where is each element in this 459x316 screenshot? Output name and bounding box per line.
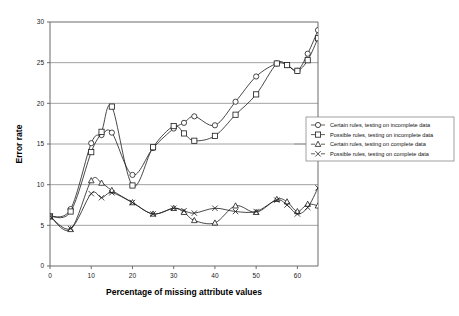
legend-item-1[interactable]: Possible rules, testing on incomplete da…	[311, 132, 434, 138]
series-2-point-4	[109, 187, 115, 192]
series-1-point-13	[274, 61, 279, 66]
series-2-triangle	[47, 177, 321, 231]
series-2-point-9	[192, 217, 198, 222]
series-0-point-9	[192, 114, 197, 119]
series-0-point-12	[254, 74, 259, 79]
y-tick-label-25: 25	[37, 59, 45, 66]
legend-marker-square-1	[315, 132, 320, 137]
chart-container: 0510152025300102030405060Percentage of m…	[0, 0, 459, 316]
legend-label-0: Certain rules, testing on incomplete dat…	[330, 122, 431, 128]
series-1-point-8	[181, 131, 186, 136]
y-tick-label-15: 15	[37, 140, 45, 147]
legend-marker-circle-0	[315, 122, 320, 127]
legend-label-1: Possible rules, testing on incomplete da…	[330, 132, 434, 138]
y-tick-label-10: 10	[37, 181, 45, 188]
y-tick-label-5: 5	[40, 222, 44, 229]
series-0-point-2	[89, 141, 94, 146]
series-1-point-10	[212, 133, 217, 138]
series-2-line	[50, 177, 318, 230]
series-3-point-3	[99, 195, 104, 200]
series-1-point-1	[68, 209, 73, 214]
series-3-x	[47, 185, 320, 231]
series-1-point-2	[89, 150, 94, 155]
series-1-point-9	[192, 138, 197, 143]
series-1-point-14	[284, 63, 289, 68]
y-tick-label-20: 20	[37, 100, 45, 107]
x-tick-label-30: 30	[170, 272, 178, 279]
series-1-point-5	[130, 183, 135, 188]
series-0-point-5	[130, 172, 135, 177]
x-tick-label-10: 10	[88, 272, 96, 279]
series-1-point-3	[99, 129, 104, 134]
x-axis-title: Percentage of missing attribute values	[106, 287, 262, 297]
series-0-point-17	[315, 28, 320, 33]
series-1-point-15	[295, 68, 300, 73]
x-tick-label-60: 60	[294, 272, 302, 279]
y-axis-title: Error rate	[14, 124, 24, 163]
y-tick-label-30: 30	[37, 18, 45, 25]
x-tick-label-0: 0	[48, 272, 52, 279]
series-1-point-7	[171, 124, 176, 129]
series-1-point-12	[254, 92, 259, 97]
series-0-point-11	[233, 99, 238, 104]
x-tick-label-50: 50	[253, 272, 261, 279]
series-0-point-10	[212, 123, 217, 128]
series-0-circle	[47, 28, 320, 219]
series-0-point-8	[181, 120, 186, 125]
series-1-point-6	[150, 145, 155, 150]
series-1-point-17	[315, 36, 320, 41]
series-0-point-4	[109, 130, 114, 135]
series-2-point-10	[212, 220, 218, 225]
legend-label-2: Certain rules, testing on complete data	[330, 141, 427, 147]
series-3-point-2	[89, 191, 94, 196]
x-tick-label-20: 20	[129, 272, 137, 279]
series-1-square	[47, 36, 320, 219]
series-1-point-4	[109, 104, 114, 109]
x-tick-label-40: 40	[211, 272, 219, 279]
series-0-point-16	[305, 51, 310, 56]
y-tick-label-0: 0	[40, 262, 44, 269]
error-rate-line-chart: 0510152025300102030405060Percentage of m…	[0, 0, 459, 316]
legend-label-3: Possible rules, testing on complete data	[330, 151, 430, 157]
series-1-point-16	[305, 58, 310, 63]
series-1-point-11	[233, 112, 238, 117]
